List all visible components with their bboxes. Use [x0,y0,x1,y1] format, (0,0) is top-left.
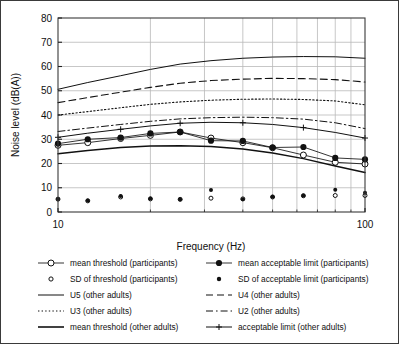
legend-label-right-3: U2 (other adults) [238,306,300,316]
y-axis-title: Noise level (dB(A)) [10,73,21,157]
legend-sample-marker-filled-circle [217,277,221,281]
legend-sample-line-marker-open-circle [38,260,64,266]
legend-label-left-2: U5 (other adults) [70,290,132,300]
marker-mean_limit_participants-16 [118,134,124,140]
noise-level-vs-frequency-chart: 01020304050607080 10100 Noise level (dB(… [1,1,399,344]
marker-sd_limit_participants-16 [119,194,123,198]
marker-mean_limit_participants-63 [300,144,306,150]
legend-item-right-0[interactable]: mean acceptable limit (participants) [206,258,369,268]
y-tick-label-80: 80 [41,13,53,24]
legend-label-right-1: SD of acceptable limit (participants) [238,274,369,284]
marker-mean_limit_participants-50 [269,144,275,150]
marker-mean_limit_participants-25 [177,129,183,135]
x-axis-title: Frequency (Hz) [177,241,246,252]
figure-container: 01020304050607080 10100 Noise level (dB(… [0,0,399,344]
marker-sd_limit_participants-40 [241,197,245,201]
legend-sample-marker-open-circle [49,277,53,281]
legend-item-right-2[interactable]: U4 (other adults) [206,290,300,300]
y-tick-label-10: 10 [41,182,53,193]
y-tick-label-30: 30 [41,134,53,145]
legend-label-left-4: mean threshold (other adults) [70,322,179,332]
legend-sample-solid-plus [206,324,232,330]
legend-label-right-4: acceptable limit (other adults) [238,322,347,332]
y-tick-label-70: 70 [41,37,53,48]
y-tick-label-40: 40 [41,110,53,121]
legend-label-right-2: U4 (other adults) [238,290,300,300]
marker-mean_limit_participants-20 [147,130,153,136]
legend-sample-line-marker-filled-circle [206,260,232,266]
marker-sd_limit_participants-80 [333,188,337,192]
legend-item-right-3[interactable]: U2 (other adults) [206,306,300,316]
marker-mean_limit_participants-31.5 [208,138,214,144]
legend-item-left-4[interactable]: mean threshold (other adults) [38,322,179,332]
legend-item-left-2[interactable]: U5 (other adults) [38,290,132,300]
x-tick-label-100: 100 [357,219,374,230]
marker-sd_limit_participants-12.5 [86,199,90,203]
legend-item-left-3[interactable]: U3 (other adults) [38,306,132,316]
marker-sd_limit_participants-50 [271,195,275,199]
marker-mean_threshold_participants-63 [300,152,306,158]
marker-sd_limit_participants-20 [148,196,152,200]
marker-sd_threshold_participants-31.5 [209,196,213,200]
marker-mean_limit_participants-12.5 [85,136,91,142]
legend-label-left-3: U3 (other adults) [70,306,132,316]
legend-item-right-1[interactable]: SD of acceptable limit (participants) [217,274,369,284]
y-tick-label-50: 50 [41,85,53,96]
y-tick-label-0: 0 [46,207,52,218]
x-tick-label-10: 10 [52,219,64,230]
y-tick-label-60: 60 [41,61,53,72]
legend-label-left-0: mean threshold (participants) [70,258,178,268]
marker-sd_limit_participants-63 [301,194,305,198]
y-tick-label-20: 20 [41,158,53,169]
marker-mean_limit_participants-80 [332,155,338,161]
marker-sd_threshold_participants-80 [333,194,337,198]
legend-label-right-0: mean acceptable limit (participants) [238,258,369,268]
legend-item-left-1[interactable]: SD of threshold (participants) [49,274,178,284]
legend-label-left-1: SD of threshold (participants) [70,274,178,284]
marker-sd_limit_participants-31.5 [209,188,213,192]
legend-item-right-4[interactable]: acceptable limit (other adults) [206,322,347,332]
legend-item-left-0[interactable]: mean threshold (participants) [38,258,178,268]
chart-legend: mean threshold (participants)mean accept… [38,258,369,332]
marker-mean_limit_participants-40 [240,138,246,144]
marker-sd_limit_participants-25 [178,197,182,201]
